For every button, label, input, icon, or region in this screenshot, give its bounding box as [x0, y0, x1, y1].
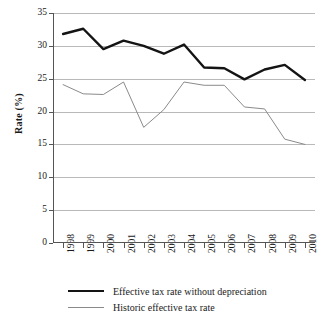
y-tick-label: 35: [38, 8, 48, 18]
x-tick-mark: [83, 243, 84, 248]
series-line-0: [63, 29, 305, 80]
x-tick-mark: [124, 243, 125, 248]
plot-area: 05101520253035 1998199920002001200220032…: [53, 13, 315, 243]
x-tick-mark: [144, 243, 145, 248]
x-tick-mark: [265, 243, 266, 248]
legend-item-1: Historic effective tax rate: [68, 299, 318, 315]
legend-label-0: Effective tax rate without depreciation: [113, 286, 267, 297]
chart-figure: Rate (%) 05101520253035 1998199920002001…: [0, 0, 325, 320]
y-tick-mark: [49, 243, 53, 244]
y-tick-label: 30: [38, 41, 48, 51]
x-tick-mark: [224, 243, 225, 248]
x-tick-mark: [184, 243, 185, 248]
series-line-1: [63, 82, 305, 144]
x-tick-mark: [204, 243, 205, 248]
y-tick-label: 5: [42, 205, 47, 215]
legend-label-1: Historic effective tax rate: [113, 302, 215, 313]
legend-line-icon-1: [68, 302, 104, 312]
x-tick-mark: [164, 243, 165, 248]
x-tick-mark: [244, 243, 245, 248]
x-tick-mark: [285, 243, 286, 248]
y-tick-label: 15: [38, 140, 48, 150]
y-tick-label: 25: [38, 74, 48, 84]
y-tick-label: 0: [42, 238, 47, 248]
x-tick-mark: [305, 243, 306, 248]
legend: Effective tax rate without depreciation …: [68, 283, 318, 315]
series-lines: [53, 13, 315, 243]
y-tick-label: 20: [38, 107, 48, 117]
x-tick-mark: [103, 243, 104, 248]
y-axis-title: Rate (%): [13, 74, 24, 154]
legend-line-icon-0: [68, 286, 104, 296]
x-tick-mark: [63, 243, 64, 248]
y-tick-label: 10: [38, 173, 48, 183]
legend-item-0: Effective tax rate without depreciation: [68, 283, 318, 299]
